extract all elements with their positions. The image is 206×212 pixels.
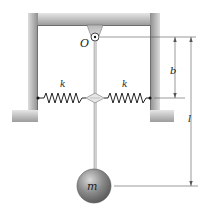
spring-collar — [86, 93, 104, 103]
spring-right-label: k — [122, 79, 127, 89]
dimension-l-label: l — [188, 113, 191, 124]
pendulum-rod — [94, 41, 96, 170]
spring-left — [37, 93, 87, 103]
frame-left-wall — [28, 13, 38, 122]
frame-top-bar — [28, 13, 160, 25]
pivot-label: O — [80, 37, 89, 50]
dimension-b — [100, 37, 196, 98]
spring-right — [104, 93, 152, 103]
pivot-bracket — [87, 25, 103, 41]
frame-right-foot — [150, 110, 174, 122]
spring-left-label: k — [60, 79, 65, 89]
dimension-b-label: b — [170, 65, 176, 76]
mass-label: m — [87, 180, 97, 193]
frame-right-wall — [150, 13, 160, 122]
frame-left-foot — [12, 110, 38, 122]
pendulum-diagram: O k k m b l — [0, 0, 206, 212]
